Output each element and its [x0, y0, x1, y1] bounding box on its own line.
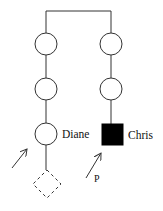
female-node-right-1	[100, 33, 122, 55]
affected-male-node-chris	[102, 124, 123, 145]
diane-label: Diane	[62, 128, 89, 140]
chris-label: Chris	[128, 129, 153, 141]
female-node-left-1	[35, 33, 57, 55]
female-node-diane	[35, 123, 57, 145]
pregnancy-diamond	[33, 170, 61, 198]
female-node-left-2	[35, 78, 57, 100]
female-node-right-2	[100, 78, 122, 100]
proband-label: P	[94, 173, 100, 184]
consultand-arrow-icon	[12, 149, 27, 168]
pedigree-diagram: Diane Chris P	[0, 0, 163, 211]
